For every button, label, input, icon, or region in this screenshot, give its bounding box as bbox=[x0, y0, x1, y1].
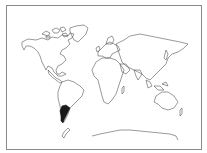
india bbox=[134, 70, 142, 80]
central-america bbox=[48, 70, 62, 83]
australia bbox=[154, 92, 178, 110]
arabia bbox=[120, 64, 130, 74]
japan bbox=[164, 50, 168, 60]
arctic-islands bbox=[42, 27, 68, 38]
scandinavia bbox=[106, 36, 114, 44]
antarctic-peninsula bbox=[62, 128, 70, 138]
new-zealand bbox=[180, 108, 182, 116]
north-america bbox=[22, 33, 74, 76]
madagascar bbox=[122, 86, 124, 94]
british-isles bbox=[96, 46, 100, 52]
africa bbox=[92, 58, 124, 104]
southeast-asia bbox=[146, 80, 168, 90]
world-map bbox=[0, 0, 207, 153]
europe bbox=[98, 42, 120, 58]
antarctica bbox=[92, 130, 178, 140]
